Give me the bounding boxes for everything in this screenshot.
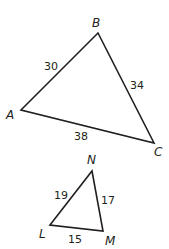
vertex-label-a: A: [5, 108, 14, 122]
vertex-label-b: B: [92, 16, 100, 30]
side-label-lm: 15: [68, 233, 82, 246]
side-label-bc: 34: [130, 79, 144, 92]
side-label-ab: 30: [44, 60, 58, 73]
vertex-label-n: N: [87, 153, 96, 167]
side-label-ln: 19: [54, 189, 68, 202]
similar-triangles-diagram: B A C 30 34 38 N L M 19 17 15: [0, 0, 169, 249]
side-label-nm: 17: [101, 194, 115, 207]
vertex-label-l: L: [39, 227, 46, 241]
triangle-lmn: N L M 19 17 15: [39, 153, 116, 248]
triangle-abc: B A C 30 34 38: [5, 16, 163, 159]
vertex-label-m: M: [105, 234, 116, 248]
side-label-ac: 38: [74, 130, 88, 143]
vertex-label-c: C: [154, 145, 163, 159]
